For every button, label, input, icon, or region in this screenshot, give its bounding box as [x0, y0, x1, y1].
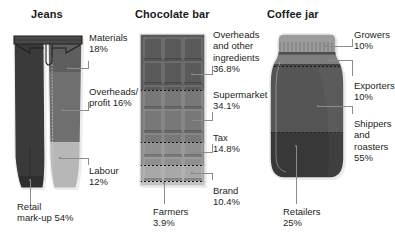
chocolate-label-brand: Brand 10.4% — [213, 185, 240, 208]
jeans-label-labour: Labour 12% — [89, 165, 119, 188]
coffee-label-growers: Growers 10% — [354, 29, 390, 52]
choc-segment-tax — [140, 142, 205, 165]
chocolate-label-tax: Tax 14.8% — [213, 132, 240, 155]
jeans-icon — [0, 28, 128, 228]
panel-title-coffee-jar: Coffee jar — [267, 8, 319, 20]
jeans-label-retail-markup: Retail mark-up 54% — [17, 201, 74, 224]
panel-title-jeans: Jeans — [31, 8, 63, 20]
panel-chocolate-bar: Chocolate bar — [128, 0, 256, 234]
panel-coffee-jar: Coffee jar — [256, 0, 385, 234]
chocolate-label-farmers: Farmers 3.9% — [153, 206, 188, 229]
jeans-segment-retail-markup — [12, 36, 48, 190]
panel-title-chocolate-bar: Chocolate bar — [135, 8, 210, 20]
coffee-label-shippers-roasters: Shippers and roasters 55% — [354, 118, 392, 164]
coffee-label-retailers: Retailers 25% — [283, 206, 321, 229]
panel-jeans: Jeans — [0, 0, 128, 234]
jeans-label-materials: Materials 18% — [89, 32, 128, 55]
coffee-label-exporters: Exporters 10% — [354, 80, 395, 103]
chocolate-label-overheads: Overheads and other ingredients 36.8% — [213, 29, 259, 75]
